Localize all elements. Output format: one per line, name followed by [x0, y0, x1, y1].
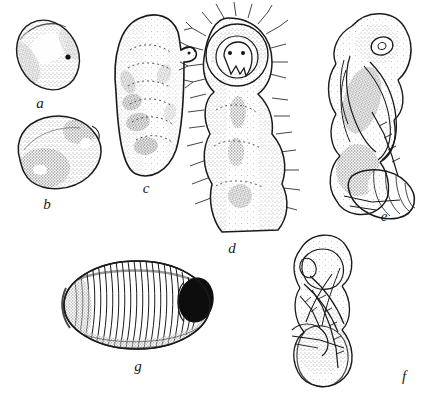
- figure-label-g: g: [134, 359, 142, 374]
- figure-label-a: a: [36, 96, 44, 111]
- plate-artwork: [0, 0, 432, 396]
- figure-label-d: d: [228, 241, 236, 256]
- figure-label-e: e: [381, 209, 388, 224]
- figure-label-f: f: [402, 369, 406, 384]
- illustration-plate: a b c d e f g: [0, 0, 432, 396]
- figure-label-b: b: [43, 197, 51, 212]
- figure-label-c: c: [143, 181, 150, 196]
